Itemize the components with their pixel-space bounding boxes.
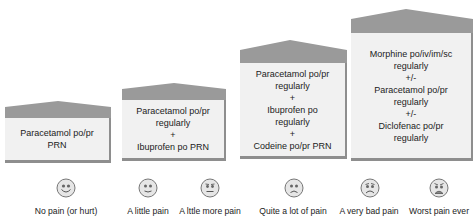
roof-shape — [351, 9, 473, 34]
ladder-step-1: Paracetamol po/pr PRN — [5, 101, 111, 163]
pain-label-4: A very bad pain — [339, 206, 398, 216]
very-sad-face-icon — [360, 178, 380, 198]
step-1-treatment: Paracetamol po/pr PRN — [20, 127, 94, 151]
roof-shape — [122, 83, 226, 101]
step-4-treatment: Morphine po/iv/im/sc regularly +/- Parac… — [370, 48, 453, 144]
ladder-step-4: Morphine po/iv/im/sc regularly +/- Parac… — [351, 9, 473, 161]
pain-label-3: Quite a lot of pain — [259, 206, 326, 216]
smiling-face-icon — [56, 178, 76, 198]
step-3-treatment: Paracetamol po/pr regularly + Ibuprofen … — [253, 68, 331, 152]
sad-face-icon — [284, 178, 304, 198]
step-1-box: Paracetamol po/pr PRN — [5, 118, 111, 163]
step-4-box: Morphine po/iv/im/sc regularly +/- Parac… — [351, 33, 473, 161]
ladder-step-2: Paracetamol po/pr regularly + Ibuprofen … — [122, 83, 226, 161]
crying-face-icon — [429, 178, 449, 198]
pain-label-0: No pain (or hurt) — [35, 206, 98, 216]
step-3-box: Paracetamol po/pr regularly + Ibuprofen … — [240, 63, 347, 159]
pain-label-5: Worst pain ever — [409, 206, 469, 216]
pain-label-1: A little pain — [127, 206, 169, 216]
step-2-treatment: Paracetamol po/pr regularly + Ibuprofen … — [136, 105, 210, 153]
step-2-box: Paracetamol po/pr regularly + Ibuprofen … — [122, 100, 226, 161]
neutral-face-icon — [200, 178, 220, 198]
roof-shape — [5, 101, 111, 119]
slight-smile-face-icon — [138, 178, 158, 198]
pain-label-2: A lttle more pain — [179, 206, 241, 216]
ladder-step-3: Paracetamol po/pr regularly + Ibuprofen … — [240, 40, 347, 159]
roof-shape — [240, 40, 347, 64]
